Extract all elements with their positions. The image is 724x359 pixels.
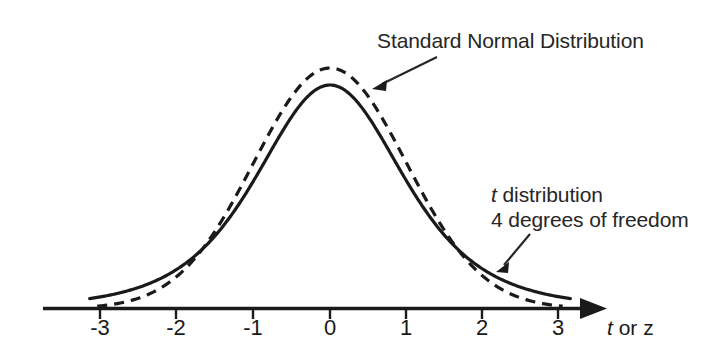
x-tick-label-0: 0 [310,315,350,341]
x-tick-label-neg1: -1 [233,315,273,341]
normal-leader-arrow [372,57,437,91]
t-distribution-label-line2: 4 degrees of freedom [491,207,689,232]
t-leader-arrow [496,234,530,273]
t-distribution-label-line1: t distribution [491,182,689,207]
axis-title-rest: or z [613,316,654,339]
x-tick-label-2: 2 [462,315,502,341]
x-axis-title: t or z [607,316,654,340]
t-leader-arrowhead [496,262,509,273]
x-tick-label-3: 3 [538,315,578,341]
t-leader-line [504,234,530,265]
normal-leader-arrowhead [372,80,387,91]
t-distribution-label: t distribution 4 degrees of freedom [491,182,689,232]
distribution-comparison-figure [0,0,724,359]
normal-leader-line [382,57,437,84]
x-tick-label-neg2: -2 [156,315,196,341]
t-distribution-word: distribution [497,183,603,206]
x-axis-arrowhead [580,298,607,319]
standard-normal-label: Standard Normal Distribution [377,28,644,53]
x-tick-label-neg3: -3 [80,315,120,341]
x-tick-label-1: 1 [386,315,426,341]
